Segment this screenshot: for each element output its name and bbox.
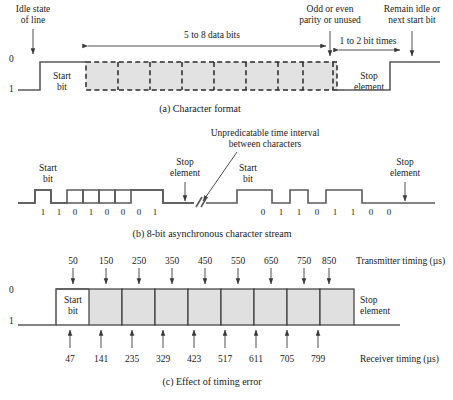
panel-c-cell-3 xyxy=(155,289,188,325)
panel-c-graphics xyxy=(0,0,453,400)
panel-c-cell-4 xyxy=(188,289,221,325)
panel-c-cell-7 xyxy=(287,289,320,325)
panel-c-cell-8 xyxy=(320,289,354,325)
panel-c-wave-left xyxy=(18,289,89,325)
panel-c-cell-6 xyxy=(254,289,287,325)
panel-c-cell-1 xyxy=(89,289,122,325)
panel-c-cell-5 xyxy=(221,289,254,325)
panel-c-cell-2 xyxy=(122,289,155,325)
figure-root: Idle state of line Odd or even parity or… xyxy=(0,0,453,400)
